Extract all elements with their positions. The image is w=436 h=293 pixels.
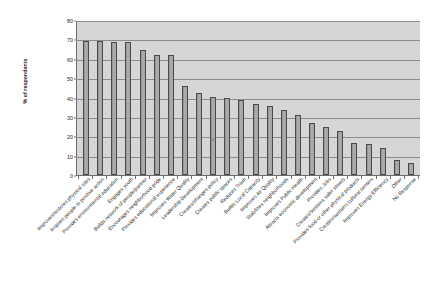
bar-slot <box>220 21 234 175</box>
y-axis-tick-label: 50 <box>67 76 73 82</box>
bar <box>97 41 103 175</box>
bar <box>253 104 259 175</box>
bar <box>295 115 301 175</box>
bar <box>154 55 160 175</box>
bar <box>238 100 244 175</box>
bar <box>267 106 273 175</box>
plot-area: 01020304050607080 <box>76 21 420 176</box>
y-axis-title: % of respondents <box>22 36 28 126</box>
bar-slot <box>150 21 164 175</box>
bar-slot <box>93 21 107 175</box>
bar-slot <box>390 21 404 175</box>
bar-slot <box>249 21 263 175</box>
y-axis-tick-label: 40 <box>67 96 73 102</box>
bar-slot <box>234 21 248 175</box>
bar <box>323 127 329 175</box>
bar-slot <box>263 21 277 175</box>
bar <box>111 42 117 175</box>
y-axis-tickmark <box>74 117 76 118</box>
x-axis-tick-label: Improves/restores physical sites <box>36 176 91 231</box>
bar <box>196 93 202 175</box>
bar-chart: % of respondents 01020304050607080 Impro… <box>0 0 436 293</box>
scan-artifact <box>211 138 214 141</box>
y-axis-tick-label: 70 <box>67 37 73 43</box>
y-axis-tickmark <box>74 98 76 99</box>
bar-slot <box>291 21 305 175</box>
bar-slot <box>277 21 291 175</box>
bar-slot <box>404 21 418 175</box>
bar-slot <box>107 21 121 175</box>
bar-slot <box>347 21 361 175</box>
bar-slot <box>376 21 390 175</box>
y-axis-tick-label: 60 <box>67 57 73 63</box>
bar-slot <box>305 21 319 175</box>
bar-slot <box>164 21 178 175</box>
bar <box>224 98 230 176</box>
y-axis-tickmark <box>74 59 76 60</box>
bar <box>83 41 89 175</box>
bar <box>182 86 188 175</box>
bar <box>309 123 315 175</box>
bar <box>168 55 174 175</box>
bar-slot <box>178 21 192 175</box>
bar-slot <box>136 21 150 175</box>
bar-slot <box>121 21 135 175</box>
bar <box>125 42 131 175</box>
bar-slot <box>206 21 220 175</box>
y-axis-tick-label: 20 <box>67 134 73 140</box>
bar-slot <box>192 21 206 175</box>
bar <box>210 97 216 175</box>
bar <box>394 160 400 175</box>
bar-series <box>77 21 420 175</box>
bar-slot <box>319 21 333 175</box>
bar-slot <box>79 21 93 175</box>
y-axis-tickmark <box>74 79 76 80</box>
bar <box>380 148 386 175</box>
bar <box>281 110 287 175</box>
bar <box>366 144 372 175</box>
bar <box>408 163 414 175</box>
y-axis-tickmark <box>74 156 76 157</box>
bar-slot <box>333 21 347 175</box>
x-axis-labels: Improves/restores physical sitesInspires… <box>0 176 436 293</box>
bar <box>337 131 343 175</box>
bar <box>140 50 146 175</box>
y-axis-tickmark <box>74 137 76 138</box>
y-axis-tick-label: 10 <box>67 154 73 160</box>
bar-slot <box>362 21 376 175</box>
y-axis-tickmark <box>74 21 76 22</box>
y-axis-tickmark <box>74 40 76 41</box>
bar <box>351 143 357 175</box>
y-axis-tick-label: 80 <box>67 18 73 24</box>
y-axis-tick-label: 30 <box>67 115 73 121</box>
